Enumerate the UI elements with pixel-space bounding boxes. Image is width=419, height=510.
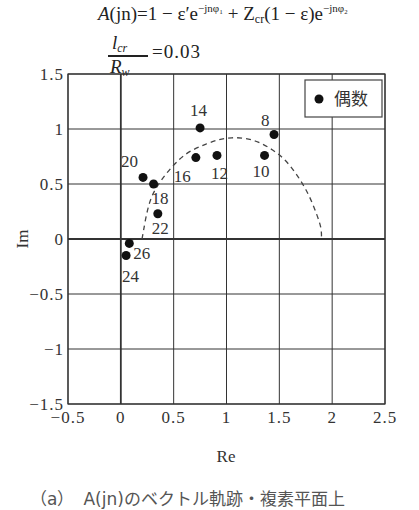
locus-path (142, 138, 322, 239)
y-tick-label: 1 (55, 120, 65, 139)
data-point (260, 151, 269, 160)
data-point-label: 18 (152, 189, 169, 208)
data-point (139, 173, 148, 182)
y-tick-label: −1 (44, 340, 64, 359)
data-point-label: 14 (190, 101, 208, 120)
data-point (270, 130, 279, 139)
legend-label: 偶数 (334, 89, 368, 109)
data-point-label: 22 (152, 219, 169, 238)
x-tick-label: 1.5 (267, 408, 291, 427)
data-point-label: 20 (121, 152, 138, 171)
y-tick-label: −0.5 (29, 285, 64, 304)
legend: 偶数 (305, 80, 382, 117)
axis-ticks: −0.500.511.522.51.510.50−0.5−1−1.5 (29, 65, 397, 427)
dashed-locus-curve (142, 138, 322, 239)
y-tick-label: 0.5 (40, 175, 64, 194)
data-point-label: 8 (261, 111, 270, 130)
data-point (212, 151, 221, 160)
data-point-label: 26 (133, 244, 150, 263)
legend-marker-icon (315, 95, 324, 104)
data-point (196, 123, 205, 132)
data-point (149, 180, 158, 189)
figure-caption: （a） A(jn)のベクトル軌跡・複素平面上 (30, 485, 345, 510)
x-axis-label: Re (217, 447, 236, 466)
data-point-label: 24 (122, 267, 140, 286)
y-axis-label: Im (13, 230, 32, 249)
x-tick-label: 2.5 (373, 408, 397, 427)
data-point (153, 209, 162, 218)
y-tick-label: 1.5 (40, 65, 64, 84)
y-tick-label: 0 (55, 230, 65, 249)
x-tick-label: 0.5 (162, 408, 186, 427)
x-tick-label: 0 (116, 408, 126, 427)
x-tick-label: 1 (222, 408, 232, 427)
data-point-label: 12 (211, 164, 228, 183)
x-tick-label: 2 (327, 408, 337, 427)
data-point (191, 153, 200, 162)
grid-lines (68, 74, 385, 404)
data-point (122, 251, 131, 260)
data-point-label: 16 (174, 167, 191, 186)
y-tick-label: −1.5 (29, 395, 64, 414)
data-point-label: 10 (253, 162, 270, 181)
